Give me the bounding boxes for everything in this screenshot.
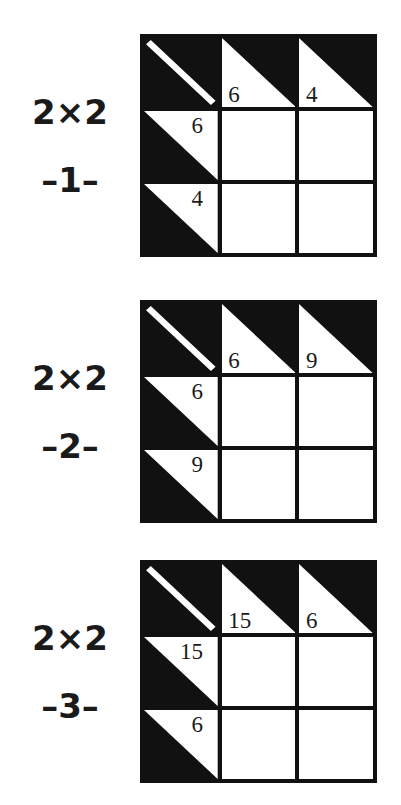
puzzle-block-2: 2×2 –2– 6 9 6 [0,300,401,523]
row-clue-cell-1: 6 [144,377,218,446]
column-clue-cell-2: 4 [299,38,373,107]
puzzle-size-label: 2×2 [32,95,108,129]
answer-cell-r2c2[interactable] [299,450,373,519]
column-clue-cell-2: 9 [299,304,373,373]
row-clue-value: 15 [180,640,203,663]
puzzle-index-label: –2– [41,429,99,463]
row-clue-value: 6 [191,713,203,736]
row-clue-value: 6 [191,114,203,137]
puzzle-label-group-3: 2×2 –3– [0,560,140,783]
row-clue-cell-2: 6 [144,710,218,779]
diagonal-stripe-icon [144,564,218,633]
answer-cell-r2c2[interactable] [299,710,373,779]
column-clue-cell-2: 6 [299,564,373,633]
answer-cell-r2c1[interactable] [222,184,296,253]
row-clue-cell-2: 4 [144,184,218,253]
row-clue-cell-1: 6 [144,111,218,180]
puzzle-size-label: 2×2 [32,361,108,395]
puzzle-grid-3: 15 6 15 6 [140,560,377,783]
puzzle-block-1: 2×2 –1– 6 4 6 [0,34,401,257]
answer-cell-r1c1[interactable] [222,637,296,706]
answer-cell-r1c2[interactable] [299,377,373,446]
column-clue-value: 4 [306,83,318,106]
column-clue-cell-1: 15 [222,564,296,633]
column-clue-value: 6 [228,83,240,106]
row-clue-cell-1: 15 [144,637,218,706]
answer-cell-r2c2[interactable] [299,184,373,253]
diagonal-stripe-icon [144,38,218,107]
answer-cell-r1c2[interactable] [299,637,373,706]
grid-corner-cell [144,304,218,373]
puzzle-block-3: 2×2 –3– 15 6 15 [0,560,401,783]
upper-right-triangle-icon [144,111,218,180]
puzzle-label-group-2: 2×2 –2– [0,300,140,523]
column-clue-cell-1: 6 [222,38,296,107]
answer-cell-r1c1[interactable] [222,111,296,180]
row-clue-value: 4 [191,187,203,210]
grid-corner-cell [144,38,218,107]
row-clue-value: 6 [191,380,203,403]
puzzle-label-group-1: 2×2 –1– [0,34,140,257]
puzzle-grid-1: 6 4 6 4 [140,34,377,257]
row-clue-value: 9 [191,453,203,476]
answer-cell-r1c2[interactable] [299,111,373,180]
puzzle-index-label: –1– [41,163,99,197]
upper-right-triangle-icon [144,184,218,253]
column-clue-value: 9 [306,349,318,372]
column-clue-cell-1: 6 [222,304,296,373]
puzzle-index-label: –3– [41,689,99,723]
column-clue-value: 6 [228,349,240,372]
upper-right-triangle-icon [144,377,218,446]
upper-right-triangle-icon [144,710,218,779]
answer-cell-r2c1[interactable] [222,710,296,779]
column-clue-value: 6 [306,609,318,632]
row-clue-cell-2: 9 [144,450,218,519]
answer-cell-r2c1[interactable] [222,450,296,519]
upper-right-triangle-icon [144,450,218,519]
column-clue-value: 15 [228,609,251,632]
puzzle-grid-2: 6 9 6 9 [140,300,377,523]
grid-corner-cell [144,564,218,633]
diagonal-stripe-icon [144,304,218,373]
answer-cell-r1c1[interactable] [222,377,296,446]
puzzle-size-label: 2×2 [32,621,108,655]
